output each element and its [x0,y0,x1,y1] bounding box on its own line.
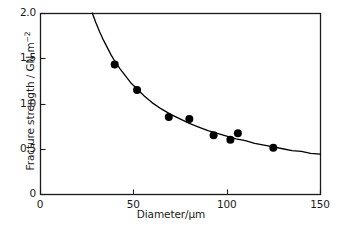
data-point-7 [269,144,277,152]
data-point-4 [210,131,218,139]
figure-container: 00.51.01.52.0 050100150 Fracture strengt… [0,0,342,229]
x-axis-title: Diameter/μm [0,208,342,220]
curve-path [92,13,320,154]
fitted-curve [92,13,320,154]
y-axis-title-exponent: −2 [23,32,32,43]
y-axis-title: Fracture strength / GN m−2 [24,11,36,191]
data-point-1 [133,86,141,94]
axis-frame [41,14,321,195]
data-point-0 [111,61,119,69]
fracture-strength-chart [0,0,342,229]
data-point-3 [185,115,193,123]
data-point-5 [226,136,234,144]
plot-frame [41,14,321,195]
data-points [111,61,278,152]
data-point-2 [165,113,173,121]
data-point-6 [234,129,242,137]
axis-ticks [41,14,321,195]
y-axis-title-text: Fracture strength / GN m [24,42,36,170]
